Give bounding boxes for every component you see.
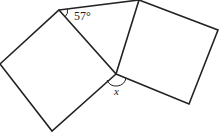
- angle-label-57: 57°: [74, 9, 91, 23]
- triangle-top-edge: [59, 0, 139, 10]
- angle-label-x: x: [113, 85, 119, 97]
- right-square: [116, 0, 218, 104]
- geometry-diagram: 57° x: [0, 0, 220, 135]
- angle-arc-57: [65, 9, 68, 17]
- left-square: [0, 10, 116, 131]
